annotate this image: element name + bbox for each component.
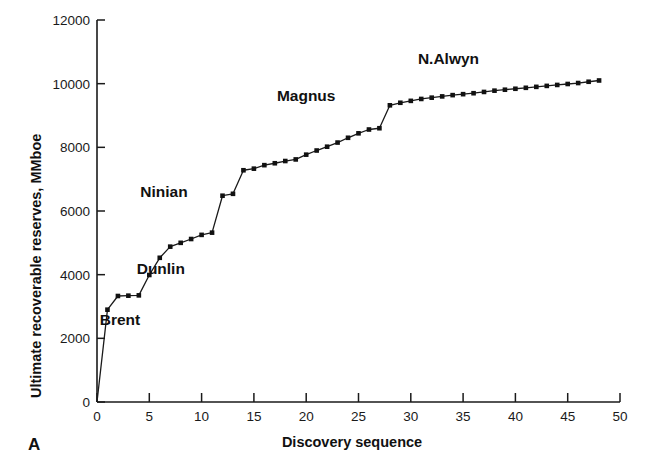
x-axis-ticks: 05101520253035404550: [93, 393, 627, 424]
data-point-marker: [126, 293, 131, 298]
data-annotation: N.Alwyn: [418, 50, 479, 67]
data-point-marker: [544, 84, 549, 89]
y-tick-label: 4000: [60, 268, 90, 283]
x-tick-label: 0: [93, 409, 101, 424]
y-tick-label: 0: [82, 395, 90, 410]
data-point-marker: [471, 91, 476, 96]
chart-svg: Ultimate recoverable reserves, MMboe Dis…: [0, 0, 661, 469]
x-tick-label: 25: [351, 409, 366, 424]
y-tick-label: 10000: [52, 77, 90, 92]
x-tick-label: 50: [612, 409, 627, 424]
data-point-marker: [199, 233, 204, 238]
data-point-marker: [220, 193, 225, 198]
data-point-marker: [576, 81, 581, 86]
data-annotation: Brent: [100, 311, 140, 328]
data-point-marker: [492, 88, 497, 93]
data-annotation: Magnus: [277, 87, 336, 104]
data-point-marker: [293, 157, 298, 162]
x-tick-label: 10: [194, 409, 209, 424]
data-point-marker: [116, 294, 121, 299]
data-point-marker: [450, 93, 455, 98]
data-annotation: Ninian: [140, 183, 187, 200]
data-point-marker: [178, 241, 183, 246]
x-tick-label: 30: [403, 409, 418, 424]
data-point-marker: [461, 92, 466, 97]
data-point-marker: [555, 83, 560, 88]
data-point-marker: [565, 82, 570, 87]
data-point-marker: [137, 293, 142, 298]
data-point-marker: [586, 79, 591, 84]
y-axis-title: Ultimate recoverable reserves, MMboe: [28, 134, 44, 398]
data-point-marker: [398, 100, 403, 105]
data-point-marker: [482, 90, 487, 95]
x-tick-label: 15: [246, 409, 261, 424]
data-point-marker: [335, 140, 340, 145]
data-point-marker: [314, 148, 319, 153]
data-point-marker: [168, 244, 173, 249]
x-tick-label: 45: [560, 409, 575, 424]
data-point-marker: [409, 99, 414, 104]
y-tick-label: 12000: [52, 13, 90, 28]
data-point-marker: [597, 78, 602, 83]
data-point-marker: [325, 144, 330, 149]
data-point-marker: [429, 95, 434, 100]
x-tick-label: 40: [508, 409, 523, 424]
y-tick-label: 8000: [60, 140, 90, 155]
panel-label: A: [28, 435, 40, 454]
data-point-marker: [189, 237, 194, 242]
data-point-marker: [419, 97, 424, 102]
x-tick-label: 5: [146, 409, 154, 424]
data-point-marker: [513, 86, 518, 91]
data-point-marker: [346, 135, 351, 140]
data-line: [97, 80, 599, 402]
x-tick-label: 35: [456, 409, 471, 424]
y-tick-label: 6000: [60, 204, 90, 219]
data-point-marker: [356, 131, 361, 136]
data-point-marker: [534, 85, 539, 90]
data-point-marker: [440, 94, 445, 99]
data-point-marker: [241, 168, 246, 173]
y-tick-label: 2000: [60, 331, 90, 346]
data-point-marker: [231, 192, 236, 197]
figure-panel-a: Ultimate recoverable reserves, MMboe Dis…: [0, 0, 661, 469]
data-point-marker: [283, 159, 288, 164]
data-point-marker: [388, 103, 393, 108]
data-point-marker: [262, 163, 267, 168]
x-axis-title-text: Discovery sequence: [282, 434, 422, 450]
data-annotation: Dunlin: [137, 260, 185, 277]
data-series-group: [97, 78, 601, 402]
x-tick-label: 20: [299, 409, 314, 424]
data-point-marker: [367, 127, 372, 132]
data-point-marker: [210, 230, 215, 235]
data-point-marker: [273, 161, 278, 166]
data-point-marker: [503, 87, 508, 92]
data-point-marker: [524, 86, 529, 91]
data-point-marker: [252, 166, 257, 171]
annotation-group: BrentDunlinNinianMagnusN.Alwyn: [100, 50, 479, 328]
data-point-marker: [377, 126, 382, 131]
data-point-marker: [304, 152, 309, 157]
y-axis-title-text: Ultimate recoverable reserves, MMboe: [28, 134, 44, 398]
